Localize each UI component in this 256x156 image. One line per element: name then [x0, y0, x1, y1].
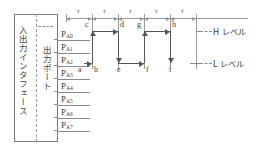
pin-stub [54, 65, 58, 66]
output-port-label: 出力ポート [41, 46, 50, 112]
tau-arrow-5 [170, 18, 196, 19]
pin-label: PA1 [61, 42, 73, 53]
pin-label: PA3 [61, 68, 73, 79]
pin-stub [54, 52, 58, 53]
pin-label: PA7 [61, 120, 73, 131]
output-pin-a1: PA1 [58, 41, 90, 54]
pin-stub [54, 117, 58, 118]
tau-symbol-4: τ [155, 7, 158, 15]
interface-port-divider [36, 14, 37, 142]
tau-symbol-3: τ [129, 7, 132, 15]
pin-label: PA5 [61, 94, 73, 105]
pin-label: PA0 [61, 29, 73, 40]
pin-stub [54, 39, 58, 40]
segment-h-i-arrowhead [168, 58, 174, 63]
io-interface-label: 入出力インタフェース [17, 26, 26, 132]
pin-stub [54, 104, 58, 105]
pin-label: PA2 [61, 55, 73, 66]
output-pin-a4: PA4 [58, 80, 90, 93]
timing-diagram-figure: 入出力インタフェース 出力ポート PA0PA1PA2PA3PA4PA5PA6PA… [0, 0, 256, 156]
point-label-g: g [137, 20, 141, 29]
output-pin-a3: PA3 [58, 67, 90, 80]
h-level-label: H レベル [213, 26, 246, 37]
point-label-d: d [120, 20, 124, 29]
l-level-label: L レベル [213, 58, 244, 69]
output-pin-a0: PA0 [58, 28, 90, 41]
pin-stub [54, 91, 58, 92]
point-label-e: e [117, 65, 121, 74]
point-label-i: i [169, 65, 171, 74]
point-label-a: a [78, 65, 82, 74]
point-label-h: h [172, 20, 176, 29]
output-pin-a7: PA7 [58, 119, 90, 132]
output-pin-list: PA0PA1PA2PA3PA4PA5PA6PA7 [58, 28, 96, 132]
tau-arrow-3 [118, 18, 144, 19]
interface-connection-dashes [38, 26, 53, 27]
point-label-b: b [94, 65, 98, 74]
tau-symbol-5: τ [181, 7, 184, 15]
tau-arrow-1 [66, 18, 92, 19]
guide-line-4 [196, 14, 197, 69]
output-pin-a2: PA2 [58, 54, 90, 67]
tau-arrow-2 [92, 18, 118, 19]
tau-arrow-4 [144, 18, 170, 19]
pin-label: PA4 [61, 81, 73, 92]
output-pin-a5: PA5 [58, 93, 90, 106]
pin-stub [54, 78, 58, 79]
l-level-dashes [200, 63, 212, 64]
pin-stub [54, 130, 58, 131]
h-level-dashes [200, 31, 212, 32]
guide-line-left [66, 14, 67, 22]
output-pin-a6: PA6 [58, 106, 90, 119]
pin-label: PA6 [61, 107, 73, 118]
point-label-f: f [146, 65, 149, 74]
point-label-c: c [85, 20, 89, 29]
tau-symbol-2: τ [103, 7, 106, 15]
tau-symbol-1: τ [77, 7, 80, 15]
l-level-line [190, 63, 200, 64]
